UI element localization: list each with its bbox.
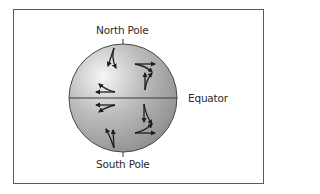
south-pole-label: South Pole [96,158,150,170]
equator-label: Equator [188,92,228,104]
north-pole-label: North Pole [96,24,148,36]
